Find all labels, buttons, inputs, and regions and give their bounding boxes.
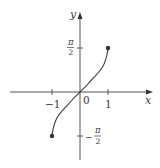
y-axis-label: y	[69, 8, 77, 21]
x-tick-label-pos1: 1	[105, 98, 112, 110]
y-tick-label-pi-half: π 2	[67, 37, 74, 57]
x-tick-label-neg1: −1	[45, 98, 60, 110]
endpoint-dot-bottom	[50, 134, 54, 138]
two-denominator: 2	[96, 137, 101, 146]
arcsin-chart: y x −1 0 1 π 2 − π 2	[0, 0, 160, 168]
y-axis-arrow-icon	[78, 12, 83, 19]
x-axis-label: x	[145, 94, 152, 107]
endpoint-dot-top	[106, 46, 110, 50]
minus-sign: −	[85, 132, 93, 142]
origin-label: 0	[83, 94, 90, 106]
y-tick-label-neg-pi-half: − π 2	[85, 125, 101, 146]
pi-numerator: π	[67, 37, 74, 47]
two-denominator: 2	[69, 48, 74, 57]
pi-numerator: π	[94, 125, 101, 135]
